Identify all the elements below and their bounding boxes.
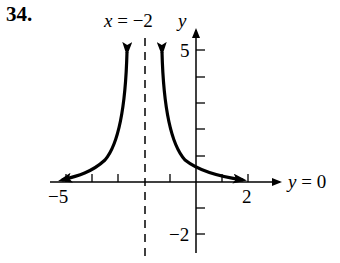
y-ticks <box>196 50 205 234</box>
y-axis-label: y <box>176 10 187 31</box>
x-tick-label-2: 2 <box>242 186 252 207</box>
left-branch-curve <box>62 52 127 180</box>
graph: x = −2 y 5 −2 −5 2 y = 0 <box>0 0 340 263</box>
horizontal-asymptote-label: y = 0 <box>286 171 326 192</box>
y-tick-label-neg2: −2 <box>169 224 189 245</box>
vertical-asymptote-label: x = −2 <box>103 10 153 31</box>
y-tick-label-5: 5 <box>180 40 190 61</box>
x-tick-label-neg5: −5 <box>48 186 68 207</box>
right-branch-curve <box>162 52 243 180</box>
